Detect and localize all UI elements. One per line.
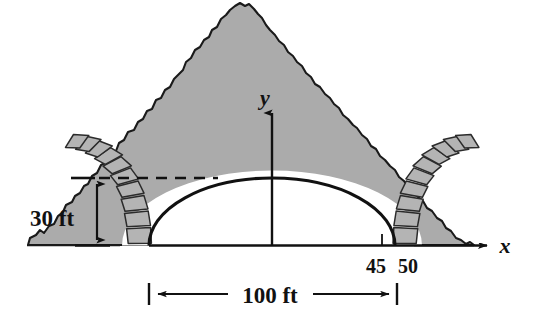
x-tick-label-45: 45 (366, 255, 386, 277)
x-tick-label-50: 50 (398, 255, 418, 277)
voussoir-stone (396, 195, 423, 211)
height-dimension-label: 30 ft (30, 206, 74, 231)
voussoir-stone (394, 211, 420, 227)
span-dimension-label: 100 ft (242, 283, 298, 308)
voussoir-stone (125, 211, 151, 227)
x-axis-label: x (499, 233, 511, 258)
figure-container: y x 30 ft 100 ft 45 50 (0, 0, 536, 320)
voussoir-stone (127, 228, 152, 244)
voussoir-stone (121, 195, 148, 211)
arch-tunnel-diagram: y x 30 ft 100 ft 45 50 (0, 0, 536, 320)
voussoir-stone (393, 228, 418, 244)
